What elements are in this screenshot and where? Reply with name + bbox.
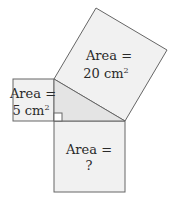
large-square-label-value: 20 cm2	[83, 66, 128, 81]
small-square-label-value: 5 cm2	[12, 103, 49, 118]
pythagorean-diagram: Area = 20 cm2 Area = 5 cm2 Area = ?	[0, 0, 171, 204]
right-angle-marker	[54, 113, 62, 121]
small-square-label-line1: Area =	[9, 86, 56, 101]
bottom-square-label-line2: ?	[86, 158, 93, 173]
bottom-square-label-line1: Area =	[65, 142, 112, 157]
large-square-label-line1: Area =	[85, 48, 132, 63]
